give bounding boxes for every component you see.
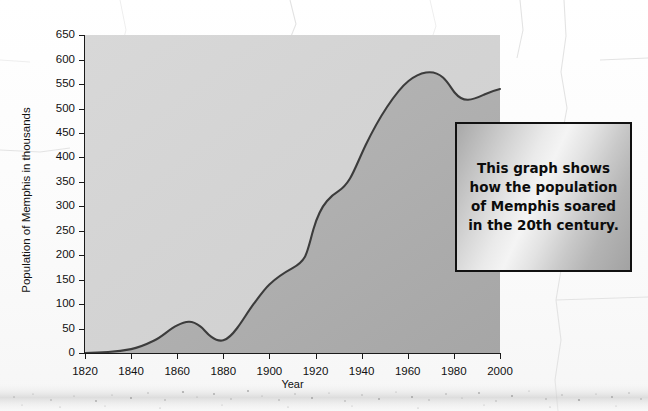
y-tick-mark [79,231,85,232]
y-tick-mark [79,280,85,281]
x-tick-mark [85,353,86,359]
x-tick-mark [500,353,501,359]
callout-box: This graph shows how the population of M… [455,122,632,272]
x-tick-mark [269,353,270,359]
data-series-area [85,35,500,353]
x-tick-mark [223,353,224,359]
x-tick-label: 1820 [72,365,98,377]
y-tick-mark [79,255,85,256]
x-tick-label: 1980 [441,365,467,377]
y-tick-mark [79,35,85,36]
y-tick-mark [79,182,85,183]
y-axis-title: Population of Memphis in thousands [20,35,32,365]
x-tick-label: 1940 [349,365,375,377]
x-tick-label: 1900 [257,365,283,377]
y-tick-mark [79,60,85,61]
x-axis-line [84,353,501,354]
y-tick-mark [79,304,85,305]
x-tick-label: 1860 [164,365,190,377]
x-tick-mark [362,353,363,359]
x-tick-mark [454,353,455,359]
y-tick-mark [79,329,85,330]
x-tick-label: 1840 [118,365,144,377]
y-tick-mark [79,109,85,110]
x-tick-mark [408,353,409,359]
y-tick-mark [79,206,85,207]
chart-page: 0 50 100 150 200 250 300 350 400 450 500… [0,0,648,411]
x-tick-label: 1880 [211,365,237,377]
callout-text: This graph shows how the population of M… [457,159,630,236]
x-tick-label: 2000 [487,365,513,377]
x-tick-mark [131,353,132,359]
y-tick-mark [79,84,85,85]
x-tick-label: 1960 [395,365,421,377]
x-axis-title: Year [85,378,500,390]
x-tick-mark [177,353,178,359]
y-tick-mark [79,133,85,134]
y-axis-line [84,35,85,354]
y-tick-mark [79,157,85,158]
x-tick-mark [316,353,317,359]
x-tick-label: 1920 [303,365,329,377]
